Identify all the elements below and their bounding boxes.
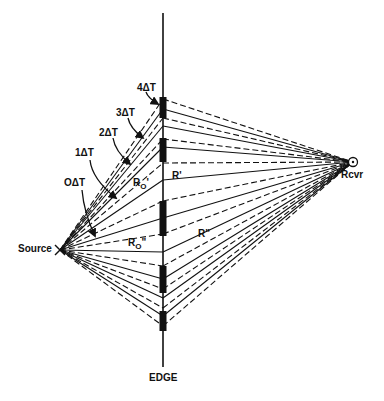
source-ray (60, 250, 163, 252)
diffraction-diagram (0, 0, 384, 401)
source-ray (60, 250, 163, 266)
edge-segment (160, 138, 167, 162)
time-label: OΔT (64, 178, 85, 188)
path-label: RO" (128, 238, 146, 251)
path-label: R' (172, 171, 182, 181)
edge-label: EDGE (149, 373, 177, 383)
receiver-ray (163, 139, 353, 162)
receiver-ray (163, 118, 353, 162)
source-ray (60, 250, 163, 298)
receiver-label: Rcvr (341, 170, 363, 180)
receiver-ray (163, 162, 353, 298)
arrow-icon (146, 92, 158, 104)
receiver-ray (163, 162, 353, 218)
receiver-ray (163, 162, 353, 326)
source-ray (60, 250, 163, 279)
time-label: 4ΔT (137, 83, 156, 93)
source-ray (60, 201, 163, 250)
source-ray (60, 250, 163, 308)
edge-segment (160, 97, 167, 118)
time-label: 1ΔT (75, 148, 94, 158)
receiver-ray (163, 162, 353, 308)
receiver-ray (163, 99, 353, 162)
edge-segment (160, 201, 167, 236)
receiver-ray (163, 162, 353, 163)
edge-segment (160, 266, 167, 293)
time-label: 2ΔT (99, 128, 118, 138)
path-label: RO' (133, 178, 149, 191)
receiver-ray (163, 126, 353, 162)
arrow-icon (128, 118, 143, 138)
source-ray (60, 250, 163, 326)
receiver-ray (163, 162, 353, 234)
source-label: Source (18, 244, 52, 254)
receiver-rays (163, 99, 353, 326)
edge-segment (160, 311, 167, 331)
source-ray (60, 99, 163, 250)
path-label: R" (198, 229, 210, 239)
time-label: 3ΔT (116, 108, 135, 118)
receiver-ray (163, 162, 353, 289)
receiver-ray (163, 162, 353, 279)
